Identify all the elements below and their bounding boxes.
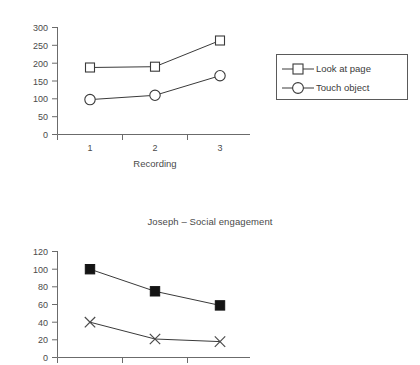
- chart-1-marker-open-square: [151, 62, 160, 71]
- chart-1-marker-open-circle: [85, 94, 95, 104]
- chart-2-marker-filled-square: [215, 301, 224, 310]
- chart-2-x-ticks: [58, 358, 188, 364]
- chart-1-series-touch-object: [85, 71, 225, 105]
- chart-2-plot-area: 120 100 80 60 40 20 0: [0, 210, 420, 365]
- chart-1-x-ticks: [58, 135, 188, 141]
- chart-2-series-eye-gaze: [85, 317, 225, 347]
- chart-1-ytick-label-150: 150: [33, 77, 48, 87]
- chart-figure-1: 300 250 200 150 100 50 0 1 2 3 Recording: [0, 0, 420, 185]
- chart-1-ytick-label-200: 200: [33, 59, 48, 69]
- chart-2-y-ticks: [52, 252, 58, 358]
- chart-1-ytick-label-300: 300: [33, 23, 48, 33]
- chart-1-series-look-at-page: [86, 36, 225, 72]
- chart-2-series-looking-at-storyteller: [85, 265, 224, 311]
- chart-1-ytick-label-250: 250: [33, 41, 48, 51]
- chart-1-xtick-label-2: 2: [152, 143, 157, 153]
- legend-label-look-at-page: Look at page: [316, 63, 371, 75]
- chart-1-xaxis-label: Recording: [133, 158, 176, 169]
- chart-1-ytick-label-0: 0: [43, 130, 48, 140]
- chart-2-ytick-label-60: 60: [38, 300, 48, 310]
- chart-2-ytick-label-80: 80: [38, 282, 48, 292]
- chart-1-legend: Look at page Touch object: [276, 54, 408, 100]
- legend-entry-touch-object: Touch object: [277, 78, 407, 97]
- open-square-marker-icon: [280, 62, 316, 76]
- chart-2-marker-filled-square: [150, 287, 159, 296]
- chart-1-marker-open-square: [86, 63, 95, 72]
- chart-2-ytick-label-120: 120: [33, 247, 48, 257]
- chart-figure-2: Joseph – Social engagement 120 100 80 60…: [0, 210, 420, 365]
- chart-1-xtick-label-1: 1: [87, 143, 92, 153]
- chart-2-marker-filled-square: [85, 265, 94, 274]
- chart-2-ytick-label-0: 0: [43, 353, 48, 363]
- chart-1-ytick-label-50: 50: [38, 112, 48, 122]
- chart-2-ytick-label-100: 100: [33, 265, 48, 275]
- chart-1-marker-open-circle: [215, 71, 225, 81]
- legend-entry-look-at-page: Look at page: [277, 59, 407, 78]
- chart-1-marker-open-circle: [150, 90, 160, 100]
- open-circle-marker-icon: [280, 81, 316, 95]
- legend-label-touch-object: Touch object: [316, 82, 369, 94]
- chart-2-marker-cross: [85, 317, 95, 327]
- chart-1-xtick-label-3: 3: [217, 143, 222, 153]
- chart-2-ytick-label-40: 40: [38, 318, 48, 328]
- chart-1-y-ticks: [52, 28, 58, 135]
- chart-1-ytick-label-100: 100: [33, 94, 48, 104]
- chart-2-ytick-label-20: 20: [38, 335, 48, 345]
- chart-1-marker-open-square: [216, 36, 225, 45]
